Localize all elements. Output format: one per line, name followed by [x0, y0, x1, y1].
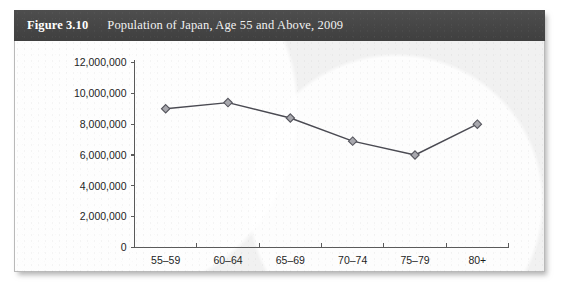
data-point-marker-4	[411, 151, 419, 159]
x-tick-label-5: 80+	[468, 254, 486, 266]
population-series-line	[166, 103, 478, 155]
data-point-marker-1	[224, 98, 232, 106]
y-tick-label-2: 4,000,000	[80, 180, 127, 192]
figure-card: Figure 3.10 Population of Japan, Age 55 …	[14, 10, 545, 272]
x-tick-label-0: 55–59	[151, 254, 180, 266]
population-data-markers	[161, 98, 481, 159]
x-tick-label-1: 60–64	[213, 254, 242, 266]
x-axis-labels: 55–5960–6465–6970–7475–7980+	[151, 254, 486, 266]
x-tick-label-4: 75–79	[400, 254, 429, 266]
line-chart-svg: 55–5960–6465–6970–7475–7980+ 02,000,0004…	[15, 41, 545, 272]
y-axis-ticks	[131, 63, 135, 248]
y-tick-label-5: 10,000,000	[74, 87, 127, 99]
y-tick-label-4: 8,000,000	[80, 118, 127, 130]
chart-plot-panel: 55–5960–6465–6970–7475–7980+ 02,000,0004…	[14, 41, 545, 272]
data-point-marker-3	[348, 137, 356, 145]
figure-root: Figure 3.10 Population of Japan, Age 55 …	[0, 0, 561, 293]
y-axis-labels: 02,000,0004,000,0006,000,0008,000,00010,…	[74, 56, 127, 253]
y-tick-label-0: 0	[121, 241, 127, 253]
x-axis-ticks	[135, 243, 509, 248]
x-tick-label-3: 70–74	[338, 254, 367, 266]
y-tick-label-1: 2,000,000	[80, 210, 127, 222]
y-tick-label-6: 12,000,000	[74, 56, 127, 68]
x-tick-label-2: 65–69	[276, 254, 305, 266]
figure-title-text: Population of Japan, Age 55 and Above, 2…	[107, 18, 343, 33]
data-point-marker-0	[161, 105, 169, 113]
data-point-marker-5	[473, 120, 481, 128]
figure-number-label: Figure 3.10	[27, 18, 88, 33]
y-tick-label-3: 6,000,000	[80, 149, 127, 161]
figure-title-bar: Figure 3.10 Population of Japan, Age 55 …	[14, 10, 545, 41]
data-point-marker-2	[286, 114, 294, 122]
